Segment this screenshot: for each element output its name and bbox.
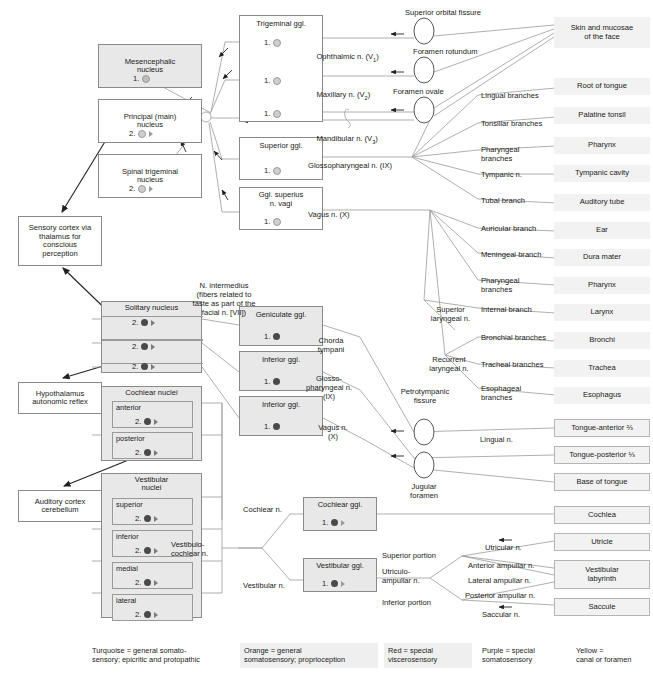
target-root-of-tongue[interactable]: Root of tongue (554, 78, 650, 95)
target-bronchi[interactable]: Bronchi (554, 332, 650, 349)
target-utricle[interactable]: Utricle (554, 533, 650, 551)
target-pharynx-x[interactable]: Pharynx (554, 277, 650, 294)
target-trachea[interactable]: Trachea (554, 360, 650, 377)
foramen-label-superior-orbital-fissure: Superior orbital fissure (405, 9, 481, 18)
target-larynx[interactable]: Larynx (554, 304, 650, 321)
target-auditory-tube[interactable]: Auditory tube (554, 194, 650, 211)
legend-item-red: Red = special viscerosensory (384, 643, 472, 668)
legend-item-turquoise: Turquoise = general somato- sensory; epi… (88, 643, 234, 668)
target-ear[interactable]: Ear (554, 222, 650, 239)
target-tympanic-cavity[interactable]: Tympanic cavity (554, 165, 650, 182)
legend-item-orange: Orange = general somatosensory; proprioc… (240, 643, 378, 668)
target-base-of-tongue[interactable]: Base of tongue (554, 473, 650, 491)
target-palatine-tonsil[interactable]: Palatine tonsil (554, 107, 650, 124)
target-vestibular-labyrinth[interactable]: Vestibular labyrinth (554, 560, 650, 589)
target-skin-face[interactable]: Skin and mucosae of the face (554, 17, 650, 48)
target-cochlea[interactable]: Cochlea (554, 506, 650, 524)
foramen-label-jugular-foramen: Jugular foramen (398, 483, 450, 501)
target-pharynx-ix[interactable]: Pharynx (554, 137, 650, 154)
target-esophagus[interactable]: Esophagus (554, 387, 650, 404)
target-tongue-anterior[interactable]: Tongue-anterior ⅔ (554, 419, 650, 437)
target-saccule[interactable]: Saccule (554, 598, 650, 616)
legend-item-yellow: Yellow = canal or foramen (572, 643, 652, 668)
target-dura-mater[interactable]: Dura mater (554, 249, 650, 266)
foramen-label-foramen-ovale: Foramen ovale (393, 88, 444, 97)
foramen-label-petrotympanic-fissure: Petrotympanic fissure (386, 388, 464, 406)
foramen-label-foramen-rotundum: Foramen rotundum (413, 48, 478, 57)
legend-item-purple: Purple = special somatosensory (478, 643, 566, 668)
diagram-canvas: Mesencephalic nucleus 1. Principal (main… (0, 0, 653, 676)
target-tongue-posterior[interactable]: Tongue-posterior ⅓ (554, 446, 650, 464)
